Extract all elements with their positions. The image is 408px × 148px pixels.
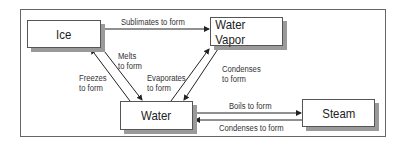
- node-ice-label: Ice: [56, 27, 71, 42]
- node-steam-label: Steam: [322, 106, 355, 121]
- node-steam: Steam: [302, 99, 375, 127]
- label-sublimates: Sublimates to form: [121, 17, 192, 27]
- label-freezes: Freezes to form: [79, 73, 110, 93]
- node-water: Water: [120, 101, 193, 130]
- node-ice: Ice: [27, 20, 101, 48]
- label-evaporates: Evaporates to form: [147, 73, 190, 93]
- node-water-vapor: Water Vapor: [210, 17, 283, 46]
- label-condenses-vapor: Condenses to form: [222, 64, 265, 84]
- node-water-vapor-label: Water Vapor: [215, 17, 277, 47]
- label-boils: Boils to form: [229, 101, 276, 111]
- label-melts: Melts to form: [118, 51, 144, 71]
- label-condenses-steam: Condenses to form: [219, 123, 291, 133]
- node-water-label: Water: [141, 108, 171, 123]
